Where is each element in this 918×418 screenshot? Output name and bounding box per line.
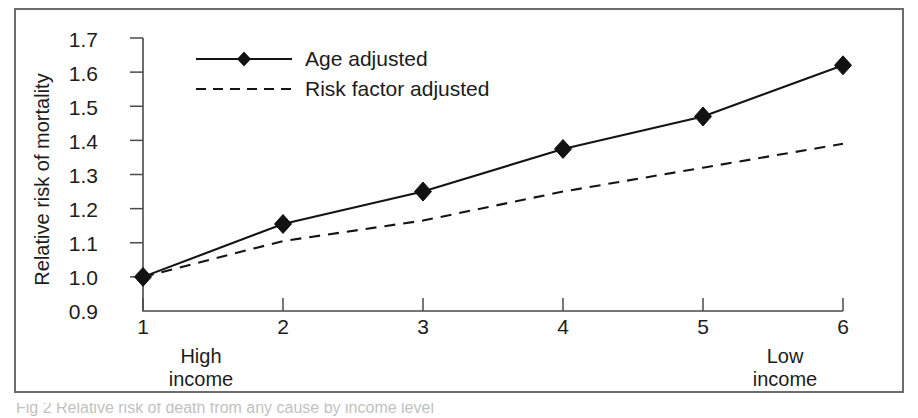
y-tick-label-8: 1.7: [44, 28, 98, 52]
figure-caption-text: Fig 2 Relative risk of death from any ca…: [16, 403, 434, 417]
y-tick-label-3: 1.2: [44, 198, 98, 222]
y-tick-label-5: 1.4: [44, 130, 98, 154]
figure-caption-clipped: Fig 2 Relative risk of death from any ca…: [16, 403, 896, 418]
legend-entry-age-adjusted: Age adjusted: [196, 44, 489, 74]
x-axis-annotation-low-income: Low income: [730, 345, 840, 391]
legend-swatch-solid-diamond-icon: [196, 49, 292, 69]
x-tick-label-6: 6: [823, 315, 863, 339]
x-tick-label-3: 3: [403, 315, 443, 339]
legend-entry-risk-factor-adjusted: Risk factor adjusted: [196, 74, 489, 104]
legend-swatch-dashed-icon: [196, 79, 292, 99]
y-tick-label-1: 1.0: [44, 266, 98, 290]
legend-label-risk-factor-adjusted: Risk factor adjusted: [305, 77, 489, 101]
x-tick-label-2: 2: [263, 315, 303, 339]
x-tick-label-4: 4: [543, 315, 583, 339]
x-axis-annotation-high-income: High income: [146, 345, 256, 391]
y-tick-label-4: 1.3: [44, 164, 98, 188]
x-tick-label-1: 1: [123, 315, 163, 339]
high-income-line1: High: [146, 345, 256, 368]
chart-legend: Age adjusted Risk factor adjusted: [196, 44, 489, 104]
y-tick-label-7: 1.6: [44, 62, 98, 86]
low-income-line2: income: [730, 368, 840, 391]
y-tick-label-0: 0.9: [44, 300, 98, 324]
legend-label-age-adjusted: Age adjusted: [305, 47, 428, 71]
y-tick-label-6: 1.5: [44, 96, 98, 120]
y-tick-label-2: 1.1: [44, 232, 98, 256]
high-income-line2: income: [146, 368, 256, 391]
low-income-line1: Low: [730, 345, 840, 368]
x-tick-label-5: 5: [683, 315, 723, 339]
